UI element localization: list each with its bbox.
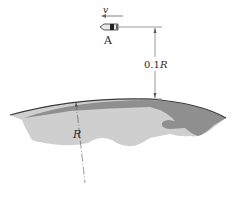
satellite-orbit-diagram: v A 0.1R R	[0, 0, 236, 198]
velocity-label: v	[103, 5, 108, 15]
satellite-label: A	[103, 34, 113, 47]
altitude-arrowhead-bottom	[154, 93, 157, 98]
radius-label: R	[72, 128, 81, 141]
altitude-arrowhead-top	[154, 28, 157, 33]
satellite-icon	[100, 24, 118, 30]
altitude-label: 0.1R	[144, 59, 168, 70]
